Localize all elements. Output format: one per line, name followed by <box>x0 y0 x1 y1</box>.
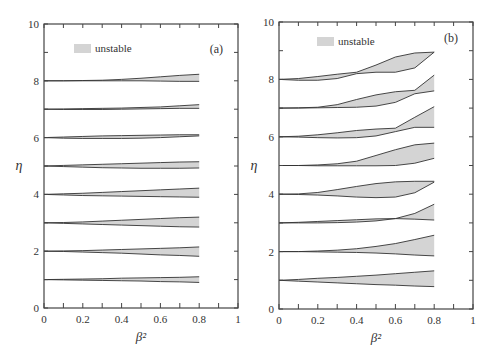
unstable-band-4 <box>279 181 434 197</box>
y-axis-label: η <box>251 158 258 173</box>
y-tick-label: 2 <box>34 245 40 257</box>
figure: 00.20.40.60.810246810β²ηunstable(a) 00.2… <box>0 0 492 358</box>
x-tick-label: 0.4 <box>115 313 129 325</box>
panel-label: (a) <box>210 42 223 56</box>
y-tick-label: 2 <box>269 246 275 258</box>
x-axis-label: β² <box>370 330 382 345</box>
y-tick-label: 8 <box>269 73 275 85</box>
band-lower-boundary <box>44 81 199 82</box>
y-tick-label: 10 <box>263 16 275 28</box>
legend-label: unstable <box>95 42 132 54</box>
legend-swatch <box>74 44 91 53</box>
x-tick-label: 0.4 <box>350 314 364 326</box>
x-tick-label: 0.2 <box>311 314 325 326</box>
y-tick-label: 8 <box>34 75 40 87</box>
x-tick-label: 0.8 <box>427 314 441 326</box>
y-tick-label: 6 <box>269 131 275 143</box>
panel-label: (b) <box>444 31 458 45</box>
unstable-band-6 <box>279 107 434 138</box>
y-tick-label: 6 <box>34 132 40 144</box>
y-tick-label: 0 <box>269 303 275 315</box>
x-tick-label: 0.6 <box>154 313 168 325</box>
unstable-band-5 <box>279 143 434 166</box>
x-tick-label: 0 <box>276 314 282 326</box>
panel-a-chart: 00.20.40.60.810246810β²ηunstable(a) <box>16 18 241 344</box>
y-tick-label: 4 <box>34 188 40 200</box>
x-tick-label: 0.6 <box>389 314 403 326</box>
x-tick-label: 1 <box>235 313 241 325</box>
unstable-band-8 <box>279 52 434 80</box>
unstable-band-1 <box>279 271 434 287</box>
legend-label: unstable <box>338 35 375 47</box>
legend-swatch <box>317 37 334 46</box>
panel-b-chart: 00.20.40.60.810246810β²ηunstable(b) <box>251 16 476 345</box>
y-axis-label: η <box>16 158 23 173</box>
y-tick-label: 4 <box>269 188 275 200</box>
x-tick-label: 0 <box>41 313 47 325</box>
y-tick-label: 10 <box>28 18 40 30</box>
x-axis-label: β² <box>135 329 147 344</box>
y-tick-label: 0 <box>34 302 40 314</box>
x-tick-label: 1 <box>470 314 476 326</box>
x-tick-label: 0.2 <box>76 313 90 325</box>
x-tick-label: 0.8 <box>192 313 206 325</box>
